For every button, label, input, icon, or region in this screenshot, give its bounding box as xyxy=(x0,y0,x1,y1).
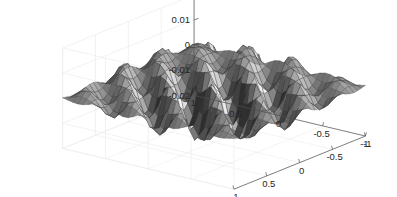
y-tick-label: 1 xyxy=(190,97,195,108)
x-tick-label: 1 xyxy=(233,191,238,197)
x-tick-label: 0.5 xyxy=(262,178,275,189)
x-tick-label: -0.5 xyxy=(326,151,342,162)
y-tick-label: -0.5 xyxy=(313,128,329,139)
surface-plot: -0.02-0.0100.010.0210.50-0.5-1-1-0.500.5… xyxy=(0,0,397,197)
z-tick-mark xyxy=(194,18,199,20)
x-tick-label: 0 xyxy=(299,165,304,176)
y-tick-mark xyxy=(323,122,324,126)
y-tick-label: 0.5 xyxy=(229,108,242,119)
figure-canvas: -0.02-0.0100.010.0210.50-0.5-1-1-0.500.5… xyxy=(0,0,397,197)
z-tick-label: -0.02 xyxy=(168,90,190,101)
z-tick-label: 0.01 xyxy=(172,14,191,25)
z-tick-label: 0 xyxy=(185,39,190,50)
x-tick-label: -1 xyxy=(363,138,371,149)
y-tick-label: 0 xyxy=(276,118,281,129)
z-tick-label: -0.01 xyxy=(168,64,190,75)
